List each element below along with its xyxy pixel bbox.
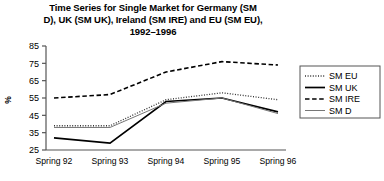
y-axis-tick-label: 25 [29,145,39,155]
x-axis-tick-label: Spring 95 [204,156,241,166]
y-axis-tick-label: 85 [29,41,39,51]
legend-label: SM EU [329,71,358,81]
y-axis-title: % [3,96,13,104]
y-axis-tick-label: 45 [29,111,39,121]
y-axis-tick-label: 65 [29,76,39,86]
series-line-sm-ire [54,62,278,98]
y-axis-tick-labels: 25354555657585 [29,41,39,155]
chart-container: Time Series for Single Market for German… [0,0,384,181]
y-axis-tick-label: 75 [29,59,39,69]
legend-label: SM UK [329,83,358,93]
y-axis-tick-label: 55 [29,93,39,103]
legend-label: SM D [329,106,352,116]
y-axis [42,46,46,150]
x-axis-tick-label: Spring 93 [92,156,129,166]
y-axis-tick-label: 35 [29,128,39,138]
x-axis-tick-label: Spring 92 [36,156,73,166]
series-line-sm-uk [54,98,278,143]
series-line-sm-eu [54,93,278,126]
x-axis-tick-label: Spring 96 [260,156,297,166]
x-axis-tick-label: Spring 94 [148,156,185,166]
data-series-group [54,62,278,143]
chart-legend: SM EUSM UKSM IRESM D [300,66,380,118]
chart-plot: 25354555657585 Spring 92Spring 93Spring … [0,0,384,181]
x-axis-tick-labels: Spring 92Spring 93Spring 94Spring 95Spri… [36,156,297,166]
legend-label: SM IRE [329,94,360,104]
